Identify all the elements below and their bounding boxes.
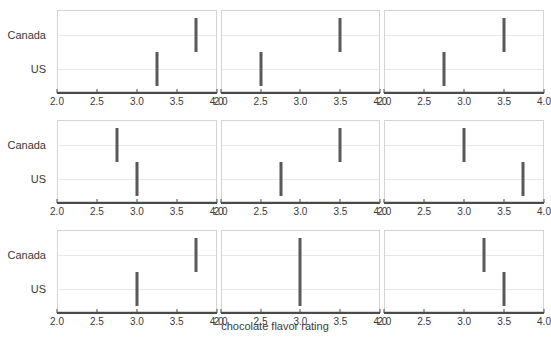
gridline-canada (222, 35, 380, 36)
x-tick-label: 2.0 (50, 206, 64, 218)
x-tick (384, 89, 385, 93)
gridline-us (385, 69, 543, 70)
facet-panel-r0-c0: 2.02.53.03.54.0 (57, 8, 217, 118)
x-tick (544, 199, 545, 203)
x-tick (96, 309, 97, 313)
data-mark-us (135, 162, 138, 196)
gridline-canada (222, 145, 380, 146)
x-axis: 2.02.53.03.54.0 (384, 202, 544, 228)
facet-grid: 2.02.53.03.54.02.02.53.03.54.02.02.53.03… (57, 8, 544, 338)
gridline-canada (385, 35, 543, 36)
x-tick (57, 309, 58, 313)
x-tick (136, 89, 137, 93)
x-tick-label: 2.5 (417, 206, 431, 218)
data-mark-canada (482, 238, 485, 272)
facet-panel-r1-c0: 2.02.53.03.54.0 (57, 118, 217, 228)
gridline-us (222, 179, 380, 180)
panel-plot-area (221, 230, 381, 312)
x-tick (300, 89, 301, 93)
y-axis-label-canada: Canada (7, 139, 46, 151)
x-axis: 2.02.53.03.54.0 (57, 202, 217, 228)
x-tick-label: 2.5 (417, 96, 431, 108)
x-tick (57, 199, 58, 203)
x-tick (464, 199, 465, 203)
x-tick (424, 309, 425, 313)
x-tick (260, 199, 261, 203)
data-mark-us (502, 272, 505, 306)
facet-panel-r0-c2: 2.02.53.03.54.0 (384, 8, 544, 118)
x-tick (220, 309, 221, 313)
x-tick (216, 89, 217, 93)
x-tick-label: 3.5 (497, 96, 511, 108)
facet-panel-r1-c2: 2.02.53.03.54.0 (384, 118, 544, 228)
x-tick (220, 89, 221, 93)
x-tick-label: 3.0 (457, 206, 471, 218)
panel-plot-area (384, 230, 544, 312)
panel-plot-area (57, 230, 217, 312)
data-mark-canada (463, 128, 466, 162)
x-tick (216, 309, 217, 313)
x-tick-label: 2.0 (214, 206, 228, 218)
x-tick (464, 89, 465, 93)
panel-plot-area (221, 10, 381, 92)
x-tick-label: 2.5 (90, 206, 104, 218)
facet-panel-r0-c1: 2.02.53.03.54.0 (221, 8, 381, 118)
x-tick (504, 89, 505, 93)
x-tick (340, 309, 341, 313)
gridline-us (58, 69, 216, 70)
data-mark-canada (502, 18, 505, 52)
x-tick-label: 2.0 (377, 206, 391, 218)
x-tick (300, 199, 301, 203)
x-tick (424, 89, 425, 93)
panel-plot-area (57, 120, 217, 202)
x-tick-label: 3.5 (333, 206, 347, 218)
gridline-us (385, 179, 543, 180)
data-mark-us (155, 52, 158, 86)
data-mark-canada (338, 128, 341, 162)
data-mark-us (279, 162, 282, 196)
x-tick (260, 89, 261, 93)
x-tick (380, 89, 381, 93)
y-axis-label-canada: Canada (7, 29, 46, 41)
gridline-canada (385, 255, 543, 256)
data-mark-canada (338, 18, 341, 52)
x-tick (96, 199, 97, 203)
x-axis: 2.02.53.03.54.0 (384, 92, 544, 118)
x-tick (216, 199, 217, 203)
data-mark-canada (116, 128, 119, 162)
x-tick-label: 3.5 (170, 206, 184, 218)
data-mark-us (299, 272, 302, 306)
x-tick-label: 4.0 (537, 206, 551, 218)
x-tick-label: 2.0 (50, 96, 64, 108)
data-mark-canada (194, 18, 197, 52)
x-tick-label: 2.5 (90, 96, 104, 108)
x-tick (176, 199, 177, 203)
panel-plot-area (57, 10, 217, 92)
x-tick-label: 3.0 (130, 206, 144, 218)
x-tick (136, 199, 137, 203)
x-tick (96, 89, 97, 93)
x-axis: 2.02.53.03.54.0 (221, 202, 381, 228)
gridline-canada (58, 35, 216, 36)
y-axis-labels: CanadaUS (0, 8, 52, 118)
y-axis-label-us: US (31, 283, 46, 295)
x-tick (380, 309, 381, 313)
y-axis-labels: CanadaUS (0, 228, 52, 338)
x-tick-label: 3.5 (333, 96, 347, 108)
x-tick (504, 199, 505, 203)
x-tick-label: 3.0 (457, 96, 471, 108)
x-tick (504, 309, 505, 313)
x-tick (424, 199, 425, 203)
data-mark-us (522, 162, 525, 196)
x-tick (57, 89, 58, 93)
x-tick (136, 309, 137, 313)
gridline-us (385, 289, 543, 290)
x-tick (384, 309, 385, 313)
x-tick-label: 2.5 (254, 96, 268, 108)
x-tick-label: 3.5 (170, 96, 184, 108)
x-tick (340, 199, 341, 203)
x-axis: 2.02.53.03.54.0 (57, 92, 217, 118)
y-axis-label-us: US (31, 173, 46, 185)
data-mark-us (135, 272, 138, 306)
